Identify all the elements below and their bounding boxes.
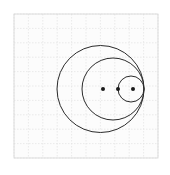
geometry-figure-svg bbox=[0, 0, 170, 175]
middle-center-dot bbox=[116, 87, 120, 91]
figure-root bbox=[0, 0, 170, 175]
inner-center-dot bbox=[131, 87, 135, 91]
outer-center-dot bbox=[101, 87, 105, 91]
